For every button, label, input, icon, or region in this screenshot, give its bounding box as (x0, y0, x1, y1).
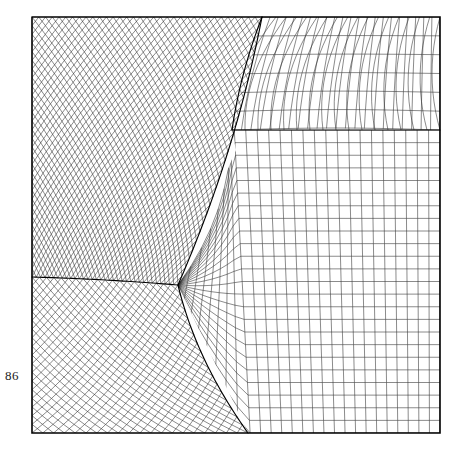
mesh-line (237, 425, 242, 433)
mesh-line (165, 258, 189, 284)
mesh-line (32, 338, 151, 433)
mesh-line (113, 17, 206, 214)
page-number: 86 (5, 368, 19, 384)
mesh-line (32, 312, 183, 433)
mesh-line (54, 278, 242, 425)
mesh-line (108, 327, 191, 433)
mesh-line (59, 17, 178, 285)
mesh-lines (32, 17, 440, 433)
mesh-line (32, 280, 98, 355)
mesh-line (73, 17, 186, 267)
mesh-line (178, 193, 440, 285)
mesh-line (32, 17, 167, 190)
mesh-line (131, 187, 216, 281)
mesh-line (32, 280, 105, 364)
mesh-line (140, 351, 201, 433)
mesh-line (174, 17, 233, 134)
mesh-line (92, 107, 241, 280)
mesh-line (32, 346, 140, 433)
mesh-line (309, 17, 338, 130)
mesh-block (232, 17, 440, 130)
mesh-line (271, 17, 307, 130)
mesh-line (133, 17, 216, 187)
mesh-block (178, 130, 440, 433)
mesh-line (284, 17, 317, 130)
mesh-block (32, 277, 248, 433)
mesh-line (152, 232, 200, 283)
mesh-line (32, 283, 149, 416)
mesh-line (178, 282, 440, 286)
mesh-line (32, 277, 226, 433)
mesh-line (188, 17, 239, 116)
mesh-line (151, 360, 205, 434)
mesh-line (178, 17, 262, 285)
mesh-line (178, 256, 440, 285)
mesh-line (178, 218, 440, 285)
mesh-line (178, 285, 440, 357)
mesh-line (126, 178, 219, 281)
mesh-line (32, 278, 69, 320)
mesh-line (139, 205, 210, 282)
mesh-line (208, 17, 246, 89)
mesh-line (216, 409, 232, 433)
mesh-line (194, 17, 241, 107)
mesh-line (178, 285, 440, 294)
mesh-line (101, 125, 236, 280)
mesh-line (231, 147, 238, 418)
mesh-line (161, 17, 228, 152)
mesh-line (408, 17, 419, 130)
mesh-line (178, 231, 440, 285)
mesh-figure (0, 0, 464, 450)
mesh-line (178, 269, 440, 285)
mesh-line (32, 34, 152, 283)
mesh-line (334, 17, 358, 130)
document-page: 86 (0, 0, 464, 450)
mesh-line (322, 17, 348, 130)
mesh-line (32, 17, 228, 268)
mesh-line (32, 329, 162, 433)
mesh-line (144, 214, 207, 282)
mesh-line (32, 190, 75, 278)
mesh-line (178, 181, 440, 286)
mesh-line (83, 279, 222, 392)
mesh-line (32, 278, 61, 312)
mesh-line (32, 303, 194, 433)
mesh-line (359, 17, 378, 130)
mesh-line (32, 281, 120, 381)
mesh-line (47, 277, 248, 433)
mesh-line (79, 17, 189, 258)
